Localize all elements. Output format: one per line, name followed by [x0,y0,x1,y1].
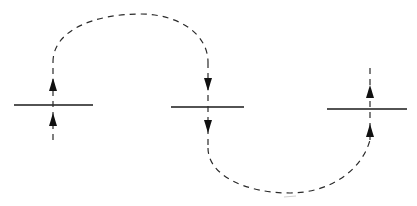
arrow-down-icon [204,120,212,133]
arrow-up-icon [366,124,374,137]
arrow-up-icon [366,85,374,98]
arrow-up-icon [49,113,57,126]
arrow-down-icon [204,78,212,91]
upper-arc-path [53,14,208,62]
arrow-up-icon [49,78,57,91]
scan-artifact [284,196,296,197]
lower-arc-path [208,140,370,193]
flow-diagram [0,0,417,206]
